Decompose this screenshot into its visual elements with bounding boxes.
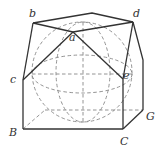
edge-d-G xyxy=(133,22,143,110)
label-G: G xyxy=(146,110,155,123)
vertex-labels: b a d c e B C G xyxy=(8,7,155,148)
edge-a-d xyxy=(73,22,133,32)
label-b: b xyxy=(29,7,36,20)
cube-sphere-diagram: b a d c e B C G xyxy=(0,0,165,150)
top-back-edges xyxy=(33,13,133,23)
edge-C-G xyxy=(123,110,143,129)
label-a: a xyxy=(69,31,76,44)
sphere xyxy=(32,22,132,122)
label-d: d xyxy=(133,7,140,20)
sphere-outline xyxy=(32,22,132,122)
label-B: B xyxy=(8,126,17,139)
label-e: e xyxy=(123,69,130,82)
edge-b-a xyxy=(33,23,73,32)
hidden-edge-B-back xyxy=(23,110,45,129)
edge-a-e xyxy=(73,32,123,79)
label-C: C xyxy=(120,135,129,148)
label-c: c xyxy=(10,73,16,86)
